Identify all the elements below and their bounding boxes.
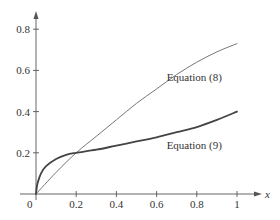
x-tick-label: 1 (234, 198, 240, 210)
x-tick-label: 0.6 (150, 198, 164, 210)
x-tick-label: 0.8 (190, 198, 204, 210)
x-tick-label: 0.4 (110, 198, 124, 210)
x-tick-label: 0.2 (69, 198, 83, 210)
y-tick-label: 0.4 (16, 106, 30, 118)
series-line-equation-9 (36, 112, 237, 194)
series-line-equation-8 (36, 44, 237, 194)
series-label-equation-9: Equation (9) (167, 139, 223, 152)
x-axis-label: x (264, 188, 270, 200)
y-tick-label: 0.6 (16, 64, 30, 76)
origin-label: 0 (27, 198, 33, 210)
series-label-equation-8: Equation (8) (167, 71, 223, 84)
chart: x 0 0.20.40.60.81 0.20.40.60.8 Equation … (0, 0, 280, 220)
series-group: Equation (8)Equation (9) (36, 44, 237, 194)
y-axis-arrow-icon (34, 11, 39, 19)
x-axis-arrow-icon (254, 192, 262, 197)
y-tick-label: 0.2 (16, 147, 30, 159)
axes: x 0 (20, 11, 270, 210)
y-tick-label: 0.8 (16, 23, 30, 35)
